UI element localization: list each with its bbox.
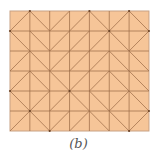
figure-caption: (b): [0, 136, 157, 151]
vertex-dot: [108, 30, 110, 32]
vertex-dot: [88, 10, 90, 12]
vertex-dot: [128, 10, 130, 12]
vertex-dot: [29, 110, 31, 112]
vertex-dot: [49, 130, 51, 132]
vertex-dot: [68, 90, 70, 92]
vertex-dot: [9, 30, 11, 32]
vertex-dot: [148, 30, 150, 32]
vertex-dot: [148, 110, 150, 112]
vertex-dot: [29, 10, 31, 12]
vertex-dot: [128, 130, 130, 132]
vertex-dot: [9, 90, 11, 92]
